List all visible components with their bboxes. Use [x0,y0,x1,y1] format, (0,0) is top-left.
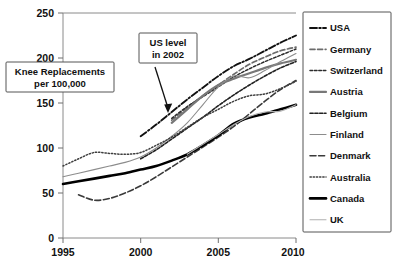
knee-replacements-chart: 250 200 150 100 50 0 1995 2000 2005 2010… [0,0,395,274]
y-tick-0: 0 [48,232,54,244]
legend-label-uk: UK [330,214,344,225]
legend-label-denmark: Denmark [330,150,371,161]
x-axis-labels: 1995 2000 2005 2010 [51,246,305,258]
legend-label-finland: Finland [330,129,364,140]
chart-canvas: 250 200 150 100 50 0 1995 2000 2005 2010… [0,0,395,274]
annotation-line2: in 2002 [152,49,184,60]
y-tick-50: 50 [42,187,54,199]
y-axis-labels: 250 200 150 100 50 0 [36,7,54,244]
annotation-line1: US level [150,37,187,48]
x-tick-1995: 1995 [51,246,75,258]
legend: USAGermanySwitzerlandAustriaBelgiumFinla… [303,12,391,232]
legend-label-usa: USA [330,22,350,33]
series-line-denmark [79,81,296,201]
legend-label-canada: Canada [330,193,365,204]
y-axis-ticks [58,13,63,238]
legend-label-belgium: Belgium [330,108,367,119]
legend-label-switzerland: Switzerland [330,65,383,76]
legend-label-australia: Australia [330,172,371,183]
legend-label-austria: Austria [330,86,363,97]
us-level-annotation-arrow [155,67,172,113]
y-axis-label-box: Knee Replacements per 100,000 [6,62,114,92]
x-tick-2005: 2005 [207,246,231,258]
series-line-australia [63,81,296,166]
legend-label-germany: Germany [330,44,372,55]
x-tick-2010: 2010 [281,246,305,258]
y-tick-250: 250 [36,7,54,19]
y-tick-100: 100 [36,142,54,154]
axis-label-line2: per 100,000 [34,78,86,89]
us-level-annotation-box: US level in 2002 [139,33,197,63]
x-tick-2000: 2000 [129,246,153,258]
y-tick-150: 150 [36,97,54,109]
axis-label-line1: Knee Replacements [15,66,105,77]
x-axis-ticks [63,238,296,243]
